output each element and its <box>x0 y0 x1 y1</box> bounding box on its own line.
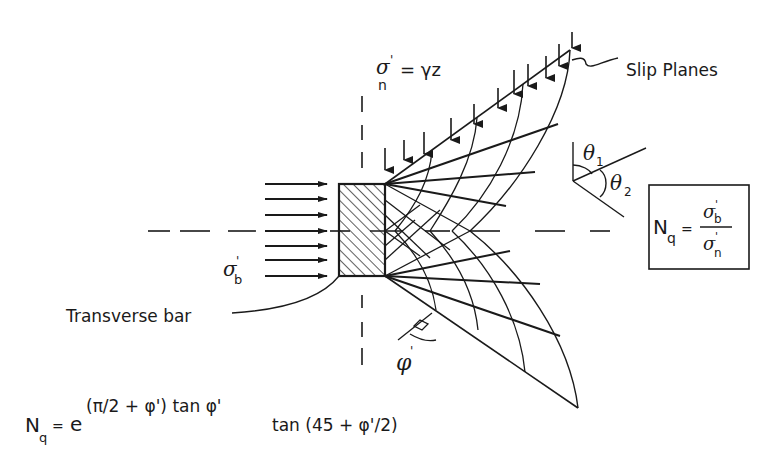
svg-text:tan (45 + φ'/2): tan (45 + φ'/2) <box>272 415 398 435</box>
svg-text:b: b <box>234 272 242 287</box>
svg-text:= γz: = γz <box>400 59 441 80</box>
bearing-pressure-arrows <box>265 184 327 276</box>
svg-text:=: = <box>52 418 64 434</box>
svg-text:': ' <box>715 230 718 243</box>
slip-plane-network <box>385 50 578 408</box>
svg-text:q: q <box>667 230 676 246</box>
diagram-canvas: σ ' n = γz Slip Planes σ ' b Transverse … <box>0 0 766 469</box>
svg-text:(π/2 + φ') tan φ': (π/2 + φ') tan φ' <box>86 396 222 416</box>
theta2-label: θ 2 <box>610 171 632 199</box>
overburden-pressure-arrows <box>385 32 572 170</box>
svg-text:σ: σ <box>376 55 391 79</box>
svg-text:1: 1 <box>596 155 604 169</box>
slip-planes-leader <box>572 58 618 66</box>
bearing-capacity-box: N q = σ ' b σ ' n <box>649 185 749 269</box>
svg-text:θ: θ <box>610 171 622 195</box>
svg-text:q: q <box>39 430 47 445</box>
svg-text:n: n <box>714 246 722 260</box>
svg-text:=: = <box>681 221 693 237</box>
nq-formula: N q = e (π/2 + φ') tan φ' tan (45 + φ'/2… <box>25 396 398 445</box>
slip-planes-label: Slip Planes <box>626 60 718 80</box>
svg-text:e: e <box>70 412 82 436</box>
theta1-label: θ 1 <box>583 141 604 169</box>
svg-text:b: b <box>714 212 722 226</box>
svg-text:2: 2 <box>624 185 632 199</box>
sigma-n-label: σ ' n = γz <box>376 53 441 93</box>
phi-label: φ ' <box>396 344 413 375</box>
transverse-bar <box>339 184 385 276</box>
sigma-b-label: σ ' b <box>223 254 242 287</box>
phi-angle-detail <box>398 313 436 341</box>
bearing-mechanism-diagram: σ ' n = γz Slip Planes σ ' b Transverse … <box>0 0 766 469</box>
svg-text:θ: θ <box>583 141 595 165</box>
svg-text:N: N <box>653 215 668 239</box>
transverse-bar-label: Transverse bar <box>65 306 191 326</box>
transverse-bar-leader <box>232 276 339 313</box>
svg-text:': ' <box>236 254 239 268</box>
svg-text:': ' <box>390 53 393 67</box>
svg-text:': ' <box>715 198 718 211</box>
svg-text:': ' <box>410 344 413 358</box>
svg-text:N: N <box>25 413 40 437</box>
svg-text:n: n <box>378 77 387 93</box>
